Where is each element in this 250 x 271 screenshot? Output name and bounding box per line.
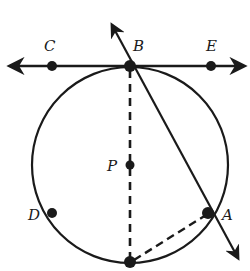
point-d xyxy=(47,208,57,218)
label-d: D xyxy=(27,206,40,224)
geometry-diagram: C B E P D A xyxy=(0,0,250,271)
label-e: E xyxy=(205,37,217,55)
label-b: B xyxy=(132,37,144,55)
point-b xyxy=(124,60,136,72)
point-e xyxy=(206,61,216,71)
point-a xyxy=(202,207,214,219)
point-bottom xyxy=(124,256,136,268)
label-p: P xyxy=(106,157,118,175)
point-c xyxy=(47,61,57,71)
point-p xyxy=(126,161,135,170)
label-c: C xyxy=(44,37,56,55)
label-a: A xyxy=(220,206,233,224)
